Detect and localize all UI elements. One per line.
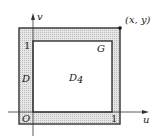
axis-v-label: v	[37, 11, 43, 22]
boundary-g-label: G	[97, 43, 105, 54]
region-diagram: v u O 1 1 D D4 G (x, y)	[0, 0, 160, 138]
point-xy-label: (x, y)	[125, 14, 151, 25]
tick-x-1-label: 1	[111, 113, 117, 124]
point-xy-marker	[118, 26, 122, 30]
tick-y-1-label: 1	[24, 40, 30, 51]
axis-u-label: u	[143, 114, 149, 125]
origin-label: O	[22, 113, 30, 124]
y-axis-arrow-icon	[31, 13, 35, 20]
region-d-label: D	[21, 73, 30, 84]
